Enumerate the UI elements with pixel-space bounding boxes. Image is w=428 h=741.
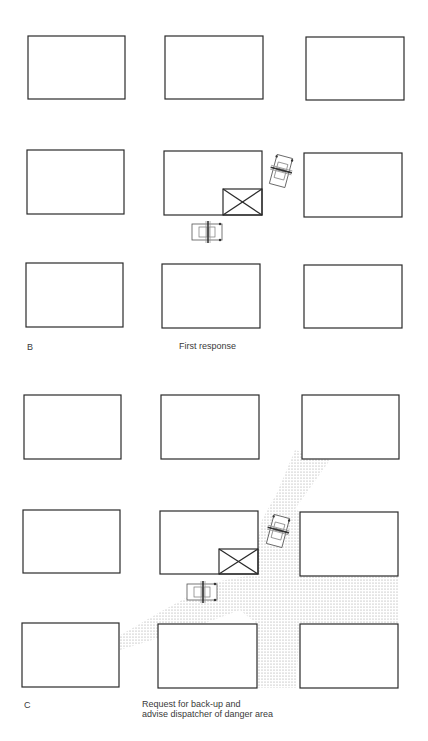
block-c-r2c1: [23, 510, 120, 573]
block-b-r2c3: [304, 153, 402, 217]
panel-c-caption-line2: advise dispatcher of danger area: [142, 709, 273, 719]
block-b-r2c1: [27, 150, 124, 214]
block-c-r2c3: [300, 512, 398, 576]
police-car-icon: [187, 581, 217, 603]
block-c-r1c3: [302, 395, 399, 459]
block-b-r1c2: [165, 36, 263, 99]
police-car-icon: [192, 221, 222, 243]
panel-c-diagram: [0, 380, 428, 741]
police-car-icon: [266, 154, 295, 189]
block-b-r3c2: [162, 264, 260, 328]
panel-c-caption-line1: Request for back-up and: [142, 699, 241, 709]
panel-b-diagram: [0, 0, 428, 360]
panel-b-letter: B: [27, 342, 33, 352]
panel-b-caption: First response: [179, 341, 236, 351]
block-c-r3c3: [300, 624, 398, 688]
panel-c-letter: C: [24, 700, 31, 710]
block-b-r1c1: [28, 36, 125, 99]
block-b-r1c3: [306, 37, 404, 100]
block-c-r3c2: [158, 624, 257, 688]
block-c-r1c2: [161, 395, 259, 459]
block-b-r3c1: [26, 263, 123, 327]
block-c-r3c1: [22, 623, 119, 687]
block-c-r1c1: [24, 395, 121, 459]
block-b-r3c3: [304, 265, 402, 328]
